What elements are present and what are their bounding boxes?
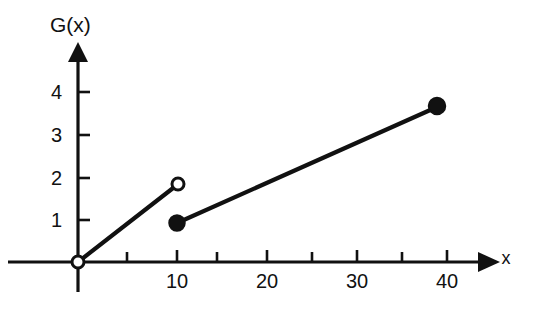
x-tick-label-40: 40: [436, 270, 458, 292]
y-axis-arrow-icon: [68, 42, 88, 62]
y-tick-label-4: 4: [51, 81, 62, 103]
left-segment-end-open-point-marker: [172, 178, 184, 190]
x-axis-ticks: [127, 250, 447, 262]
y-tick-label-3: 3: [51, 124, 62, 146]
y-tick-label-1: 1: [51, 209, 62, 231]
right-segment-start-closed-point-marker: [169, 215, 185, 231]
data-segment-1: [78, 185, 177, 262]
data-segment-2: [177, 107, 437, 223]
y-axis-ticks: [78, 92, 90, 220]
x-axis-title: x: [502, 248, 511, 268]
x-tick-label-10: 10: [166, 270, 188, 292]
x-tick-label-30: 30: [346, 270, 368, 292]
chart-container: 1 2 3 4 10 20 30 40 G(x) x: [0, 0, 542, 311]
y-tick-label-2: 2: [51, 167, 62, 189]
right-segment-end-closed-point-marker: [429, 98, 446, 115]
x-axis-arrow-icon: [478, 252, 500, 272]
origin-open-point-marker: [72, 256, 84, 268]
x-tick-label-20: 20: [256, 270, 278, 292]
y-axis-title: G(x): [50, 13, 91, 36]
graph-canvas: 1 2 3 4 10 20 30 40 G(x) x: [0, 0, 542, 311]
